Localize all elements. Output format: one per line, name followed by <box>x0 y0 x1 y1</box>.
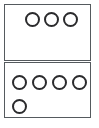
diagram-canvas <box>0 0 99 128</box>
dot-bottom-2 <box>32 75 47 90</box>
dot-bottom-4 <box>72 75 87 90</box>
dot-bottom-1 <box>12 75 27 90</box>
dot-top-3 <box>63 12 78 27</box>
dot-top-2 <box>44 12 59 27</box>
dot-top-1 <box>25 12 40 27</box>
dot-bottom-5 <box>12 99 27 114</box>
dot-bottom-3 <box>52 75 67 90</box>
dot-group-bottom-box <box>4 62 91 118</box>
dot-group-top-box <box>4 4 91 61</box>
